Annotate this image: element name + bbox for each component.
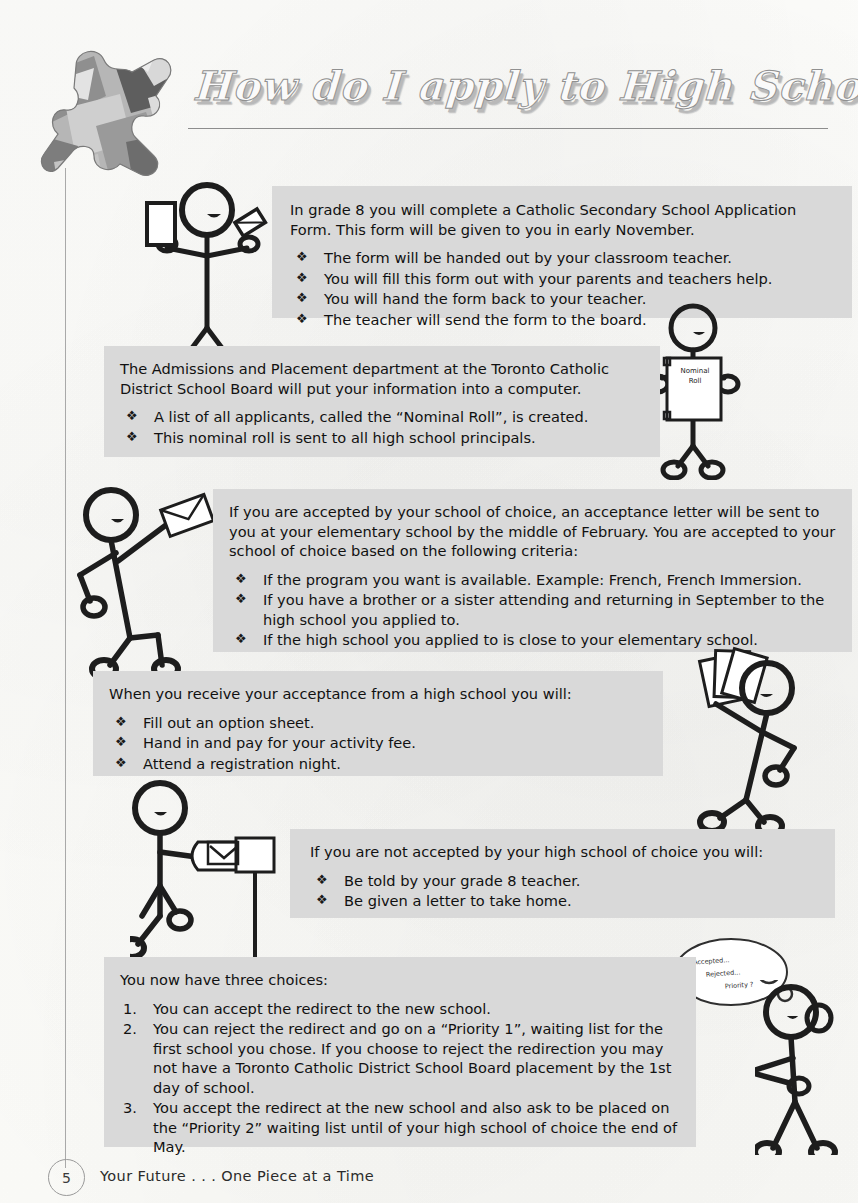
diamond-bullet-icon: ❖ <box>235 569 247 589</box>
stick-figure-holding-letter <box>58 483 223 681</box>
list-item-text: The form will be handed out by your clas… <box>324 249 732 266</box>
panel-intro: In grade 8 you will complete a Catholic … <box>290 200 836 239</box>
list-item-text: Attend a registration night. <box>143 755 341 772</box>
panel-intro: When you receive your acceptance from a … <box>109 684 647 704</box>
diamond-bullet-icon: ❖ <box>316 890 328 910</box>
list-item: ❖You will fill this form out with your p… <box>290 269 836 289</box>
list-item: ❖The form will be handed out by your cla… <box>290 248 836 268</box>
panel-bullet-list: ❖A list of all applicants, called the “N… <box>120 407 644 447</box>
thought-line-2: Rejected... <box>706 968 741 978</box>
panel-intro: The Admissions and Placement department … <box>120 359 644 398</box>
panel-intro: If you are accepted by your school of ch… <box>229 502 836 561</box>
clipboard-label: Nominal Roll <box>668 366 722 386</box>
list-item: ❖Hand in and pay for your activity fee. <box>109 733 647 753</box>
list-item: ❖Be told by your grade 8 teacher. <box>310 871 819 891</box>
list-item: ❖If the program you want is available. E… <box>229 570 836 590</box>
list-item-number: 1. <box>123 999 137 1019</box>
diamond-bullet-icon: ❖ <box>235 589 247 609</box>
thought-line-1: Accepted... <box>693 956 730 967</box>
panel-bullet-list: ❖Fill out an option sheet. ❖Hand in and … <box>109 713 647 774</box>
diamond-bullet-icon: ❖ <box>235 629 247 649</box>
list-item-text: You can reject the redirect and go on a … <box>153 1020 671 1096</box>
diamond-bullet-icon: ❖ <box>115 712 127 732</box>
content-panel-4: When you receive your acceptance from a … <box>93 671 663 776</box>
diamond-bullet-icon: ❖ <box>115 732 127 752</box>
diamond-bullet-icon: ❖ <box>296 288 308 308</box>
list-item-text: This nominal roll is sent to all high sc… <box>154 429 536 446</box>
list-item-text: You accept the redirect at the new schoo… <box>153 1099 677 1155</box>
content-panel-5: If you are not accepted by your high sch… <box>290 829 835 918</box>
content-panel-1: In grade 8 you will complete a Catholic … <box>272 186 852 318</box>
diamond-bullet-icon: ❖ <box>296 268 308 288</box>
content-panel-3: If you are accepted by your school of ch… <box>213 489 852 652</box>
list-item: 1.You can accept the redirect to the new… <box>120 999 680 1019</box>
diamond-bullet-icon: ❖ <box>126 427 138 447</box>
page-number-badge: 5 <box>48 1159 85 1196</box>
list-item: ❖Attend a registration night. <box>109 754 647 774</box>
list-item-text: You can accept the redirect to the new s… <box>153 1000 491 1017</box>
stick-figure-holding-form-and-pen <box>125 178 290 368</box>
list-item-text: You will hand the form back to your teac… <box>324 290 646 307</box>
content-panel-6: You now have three choices: 1.You can ac… <box>104 957 696 1147</box>
diamond-bullet-icon: ❖ <box>115 753 127 773</box>
list-item-text: Fill out an option sheet. <box>143 714 314 731</box>
panel-intro: If you are not accepted by your high sch… <box>310 842 819 862</box>
list-item: ❖Be given a letter to take home. <box>310 891 819 911</box>
list-item-text: Hand in and pay for your activity fee. <box>143 734 416 751</box>
list-item-text: Be given a letter to take home. <box>344 892 572 909</box>
panel-bullet-list: ❖Be told by your grade 8 teacher. ❖Be gi… <box>310 871 819 911</box>
list-item-text: If the program you want is available. Ex… <box>263 571 802 588</box>
panel-intro: You now have three choices: <box>120 970 680 990</box>
diamond-bullet-icon: ❖ <box>126 406 138 426</box>
diamond-bullet-icon: ❖ <box>316 870 328 890</box>
diamond-bullet-icon: ❖ <box>296 247 308 267</box>
footer-tagline: Your Future . . . One Piece at a Time <box>100 1168 374 1184</box>
stick-figure-thinking <box>755 980 855 1155</box>
diamond-bullet-icon: ❖ <box>296 309 308 329</box>
list-item-number: 3. <box>123 1098 137 1118</box>
list-item: ❖Fill out an option sheet. <box>109 713 647 733</box>
page-title: How do I apply to High School? <box>193 62 820 124</box>
list-item-number: 2. <box>123 1019 137 1039</box>
panel-bullet-list: ❖If the program you want is available. E… <box>229 570 836 650</box>
list-item-text: A list of all applicants, called the “No… <box>154 408 588 425</box>
list-item: ❖If you have a brother or a sister atten… <box>229 590 836 629</box>
list-item: 3.You accept the redirect at the new sch… <box>120 1098 680 1157</box>
list-item-text: You will fill this form out with your pa… <box>324 270 773 287</box>
puzzle-piece-icon <box>36 38 186 198</box>
list-item: ❖A list of all applicants, called the “N… <box>120 407 644 427</box>
list-item-text: Be told by your grade 8 teacher. <box>344 872 580 889</box>
list-item-text: The teacher will send the form to the bo… <box>324 311 647 328</box>
stick-figure-holding-papers <box>668 640 828 830</box>
content-panel-2: The Admissions and Placement department … <box>104 346 660 457</box>
list-item: ❖This nominal roll is sent to all high s… <box>120 428 644 448</box>
list-item-text: If you have a brother or a sister attend… <box>263 591 824 628</box>
panel-numbered-list: 1.You can accept the redirect to the new… <box>120 999 680 1157</box>
title-divider <box>188 128 828 129</box>
thought-line-3: Priority ? <box>725 980 754 990</box>
list-item: 2.You can reject the redirect and go on … <box>120 1019 680 1097</box>
